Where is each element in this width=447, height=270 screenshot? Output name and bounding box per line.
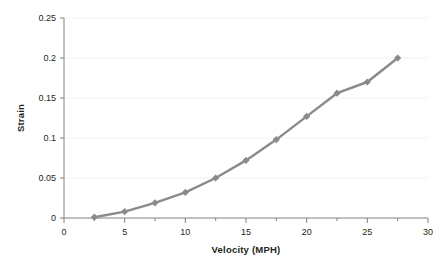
y-axis-tick-labels: 00.050.10.150.20.25 [38, 13, 56, 223]
x-tick-label: 0 [61, 227, 66, 237]
y-tick-label: 0.25 [38, 13, 56, 23]
x-axis-tick-labels: 051015202530 [61, 227, 433, 237]
y-tick-label: 0.15 [38, 93, 56, 103]
chart-container: 00.050.10.150.20.25 051015202530 Velocit… [0, 0, 447, 270]
x-axis: 051015202530 [61, 218, 433, 237]
y-axis-title: Strain [15, 104, 26, 132]
y-tick-label: 0 [51, 213, 56, 223]
x-tick-label: 15 [241, 227, 251, 237]
x-tick-label: 30 [423, 227, 433, 237]
y-tick-label: 0.1 [43, 133, 56, 143]
y-axis-ticks [60, 18, 64, 218]
x-tick-label: 25 [362, 227, 372, 237]
y-axis: 00.050.10.150.20.25 [38, 13, 64, 223]
x-axis-ticks [64, 218, 428, 223]
data-point-marker [121, 208, 128, 215]
data-point-marker [91, 214, 98, 221]
x-tick-label: 5 [122, 227, 127, 237]
gridlines [64, 18, 428, 178]
x-tick-label: 20 [302, 227, 312, 237]
line-chart: 00.050.10.150.20.25 051015202530 Velocit… [0, 0, 447, 270]
data-point-marker [151, 199, 158, 206]
y-tick-label: 0.2 [43, 53, 56, 63]
x-axis-title: Velocity (MPH) [212, 244, 281, 255]
x-tick-label: 10 [180, 227, 190, 237]
y-tick-label: 0.05 [38, 173, 56, 183]
